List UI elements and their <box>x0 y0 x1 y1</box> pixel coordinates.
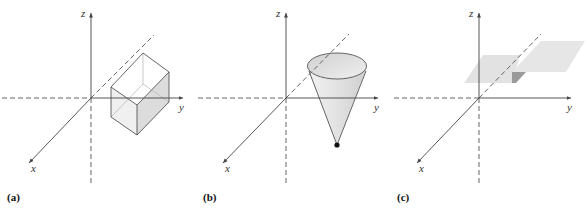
z-axis-label: z <box>468 7 474 19</box>
x-axis <box>29 98 91 163</box>
figure-canvas: z y x (a) z y x (b) <box>0 0 587 211</box>
y-axis-label: y <box>178 101 184 113</box>
x-axis-label: x <box>418 162 424 174</box>
panel-a: z y x (a) <box>2 7 184 204</box>
cone-apex-point <box>334 142 339 147</box>
y-axis-label: y <box>373 101 379 113</box>
z-axis-label: z <box>80 7 86 19</box>
panel-c: z y x (c) <box>394 7 585 204</box>
z-axis-label: z <box>275 7 281 19</box>
plane-step-shadow <box>512 72 526 83</box>
y-axis-label: y <box>566 101 572 113</box>
panel-b: z y x (b) <box>198 7 379 204</box>
x-axis <box>223 98 286 163</box>
panel-label-a: (a) <box>7 191 20 204</box>
x-axis <box>417 98 479 163</box>
horizontal-plane <box>464 41 585 83</box>
panel-label-c: (c) <box>397 191 410 204</box>
x-axis-label: x <box>224 162 230 174</box>
x-axis-label: x <box>30 162 36 174</box>
negative-x-axis <box>91 35 154 98</box>
panel-label-b: (b) <box>203 191 217 204</box>
